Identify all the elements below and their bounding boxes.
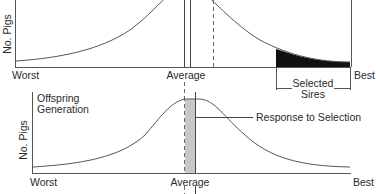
top-distribution-curve bbox=[16, 0, 350, 62]
response-shaded-band bbox=[185, 99, 195, 173]
bottom-best-label: Best bbox=[353, 176, 374, 188]
response-to-selection-label: Response to Selection bbox=[256, 111, 361, 123]
top-average-label: Average bbox=[167, 69, 206, 81]
selection-diagram: No. Pigs Worst Average Best Selected Sir… bbox=[0, 0, 376, 194]
bottom-average-label: Average bbox=[171, 176, 210, 188]
bottom-panel: Response to Selection Offspring Generati… bbox=[17, 92, 374, 194]
top-y-label: No. Pigs bbox=[1, 14, 13, 54]
bottom-worst-label: Worst bbox=[30, 176, 57, 188]
top-panel: No. Pigs Worst Average Best Selected Sir… bbox=[1, 0, 375, 100]
top-best-label: Best bbox=[354, 69, 375, 81]
top-worst-label: Worst bbox=[12, 69, 39, 81]
bottom-y-label: No. Pigs bbox=[17, 120, 29, 160]
selected-sires-label-2: Sires bbox=[301, 88, 325, 100]
offspring-generation-label-2: Generation bbox=[37, 103, 89, 115]
